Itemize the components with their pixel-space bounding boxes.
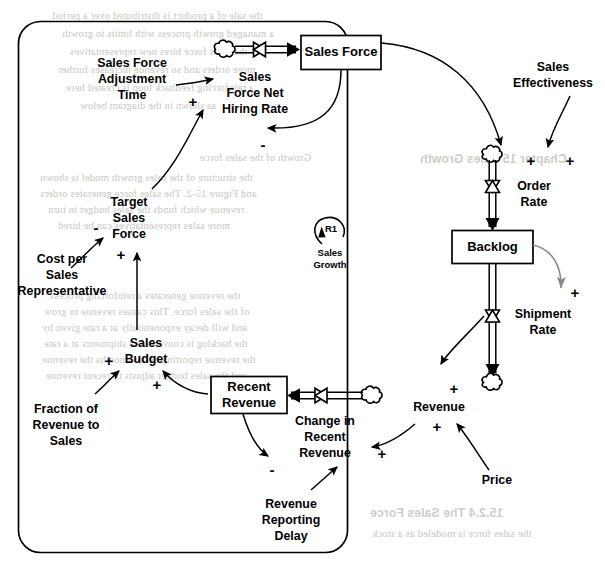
loop-marker-r1: R1 <box>315 217 345 244</box>
cloud-source-sales-force <box>214 40 235 57</box>
variable-fraction-of-revenue-to-sales-l2: Revenue to <box>33 418 100 432</box>
variable-price-label: Price <box>482 473 512 487</box>
link-target-sales-force-to-hiring-rate <box>152 110 203 189</box>
link-sales-force-to-order-rate <box>381 43 501 145</box>
sign-sales-budget-to-target-sales-force: + <box>117 246 126 263</box>
valve-sales-force-net-hiring-rate <box>254 42 266 57</box>
link-revenue-reporting-delay-to-change <box>311 467 337 490</box>
sign-target-sales-force-to-hiring-rate: + <box>189 93 198 110</box>
sign-recent-revenue-to-sales-budget: + <box>153 376 162 393</box>
link-shipment-rate-to-revenue <box>441 316 484 364</box>
sign-shipment-rate-to-revenue: + <box>450 380 459 397</box>
variable-sales-budget-l1: Sales <box>130 336 162 350</box>
stock-recent-revenue-label-l2: Revenue <box>222 395 276 410</box>
variable-cost-per-sales-representative-l3: Representative <box>18 284 107 298</box>
sign-backlog-to-shipment-rate: + <box>571 284 580 301</box>
variable-target-sales-force-l2: Sales <box>113 211 145 225</box>
variable-target-sales-force-l3: Force <box>112 227 146 241</box>
variable-revenue-reporting-delay-l1: Revenue <box>265 497 317 511</box>
sign-fraction-revenue-to-sales-budget: + <box>105 352 114 369</box>
variable-fraction-of-revenue-to-sales-l3: Sales <box>50 434 82 448</box>
flow-pipe-sales-force-hiring <box>235 42 300 57</box>
link-backlog-to-shipment-rate <box>533 245 561 288</box>
variable-sales-effectiveness-l2: Effectiveness <box>513 76 593 90</box>
flow-label-order-rate-l1: Order <box>517 179 551 193</box>
valve-change-in-recent-revenue <box>315 388 327 403</box>
flow-label-shipment-rate-l2: Rate <box>530 323 557 337</box>
variable-sales-effectiveness-l1: Sales <box>537 60 569 74</box>
link-price-to-revenue <box>457 424 489 470</box>
sign-sales-force-to-hiring-rate: - <box>261 136 266 153</box>
variable-sales-budget-l2: Budget <box>125 352 168 366</box>
link-revenue-to-change-in-recent-revenue <box>372 424 415 447</box>
variable-sales-force-adjustment-time-l2: Adjustment <box>98 72 166 86</box>
stock-and-flow-diagram: Sales Force Sales Force Net Hiring Rate … <box>0 0 605 570</box>
figure-canvas: the sale of a product is distributed ove… <box>0 0 605 570</box>
flow-label-sales-force-net-hiring-rate-l3: Hiring Rate <box>222 102 288 116</box>
loop-label-sales-growth-l1: Sales <box>318 247 343 258</box>
link-adjustment-time-to-hiring-rate <box>176 79 213 85</box>
variable-revenue-reporting-delay-l2: Reporting <box>262 513 321 527</box>
sign-revenue-to-change: + <box>378 445 387 462</box>
sign-recent-revenue-to-change: - <box>270 461 275 478</box>
variable-sales-force-adjustment-time-l3: Time <box>118 88 147 102</box>
cloud-source-order-rate <box>482 145 502 162</box>
sign-sales-force-to-order-rate: + <box>527 152 536 169</box>
flow-label-sales-force-net-hiring-rate-l1: Sales <box>239 70 271 84</box>
link-sales-effectiveness-to-order-rate <box>548 96 570 147</box>
loop-marker-r1-id: R1 <box>325 223 338 234</box>
cloud-sink-shipment-rate <box>482 373 502 390</box>
sign-price-to-revenue: + <box>433 418 442 435</box>
sign-sales-effectiveness-to-order-rate: + <box>566 152 575 169</box>
flow-label-shipment-rate-l1: Shipment <box>515 307 571 321</box>
variable-revenue-reporting-delay-l3: Delay <box>274 529 307 543</box>
sign-cost-per-rep-to-target-sales-force: - <box>94 219 99 236</box>
valve-shipment-rate <box>486 310 500 322</box>
link-recent-revenue-to-sales-budget <box>163 371 208 394</box>
variable-cost-per-sales-representative-l2: Sales <box>46 268 78 282</box>
flow-label-change-in-recent-revenue-l1: Change in <box>295 414 355 428</box>
stock-sales-force-label: Sales Force <box>305 44 378 59</box>
variable-target-sales-force-l1: Target <box>111 195 148 209</box>
variable-revenue-label: Revenue <box>413 400 465 414</box>
flow-label-order-rate-l2: Rate <box>521 195 548 209</box>
link-fraction-revenue-to-sales-budget <box>95 371 119 394</box>
loop-label-sales-growth-l2: Growth <box>313 259 346 270</box>
stock-recent-revenue-label-l1: Recent <box>227 379 271 394</box>
flow-label-change-in-recent-revenue-l2: Recent <box>304 430 345 444</box>
cloud-source-recent-revenue <box>361 386 382 403</box>
stock-backlog-label: Backlog <box>467 239 518 254</box>
flow-label-change-in-recent-revenue-l3: Revenue <box>299 446 351 460</box>
link-recent-revenue-to-change-in-recent-revenue <box>243 414 268 456</box>
flow-label-sales-force-net-hiring-rate-l2: Force Net <box>226 86 283 100</box>
flow-pipe-order-rate <box>486 160 500 231</box>
valve-order-rate <box>486 181 500 193</box>
variable-fraction-of-revenue-to-sales-l1: Fraction of <box>34 402 99 416</box>
variable-sales-force-adjustment-time-l1: Sales Force <box>97 56 167 70</box>
